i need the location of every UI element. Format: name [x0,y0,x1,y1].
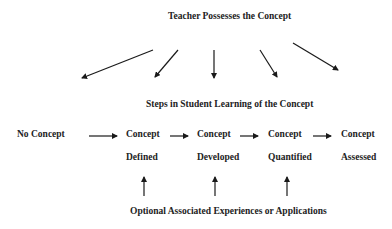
fan-arrow-2 [155,50,178,77]
stage-no-concept: No Concept [17,130,65,140]
stage-developed-line2: Developed [197,153,239,163]
stage-quantified-line1: Concept [268,130,302,140]
stage-developed-line1: Concept [197,130,231,140]
fan-arrow-4 [260,50,277,77]
stage-defined-line1: Concept [126,130,160,140]
stage-quantified-line2: Quantified [268,153,312,163]
diagram-title: Teacher Possesses the Concept [168,12,291,22]
arrows-layer [0,0,392,229]
footer-label: Optional Associated Experiences or Appli… [130,207,327,217]
stage-assessed-line2: Assessed [341,153,376,163]
fan-arrow-1 [82,50,153,78]
stage-defined-line2: Defined [126,153,158,163]
steps-title: Steps in Student Learning of the Concept [146,100,313,110]
stage-assessed-line1: Concept [341,130,375,140]
fan-arrow-5 [293,43,338,70]
